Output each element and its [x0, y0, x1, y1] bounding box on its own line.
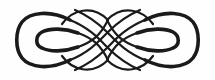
left-inner-loop — [37, 29, 78, 51]
knot-ornament-graphic — [0, 0, 215, 80]
braid-bottom-arch-left — [62, 56, 108, 70]
right-outer-loop — [145, 13, 198, 66]
braid-bottom-arch-right — [107, 56, 153, 70]
knot-ornament: Interlaced knot ornament — [0, 0, 215, 80]
braid-top-arch-left — [62, 10, 108, 24]
braid-top-arch-right — [107, 10, 153, 24]
left-outer-loop — [17, 13, 70, 66]
right-inner-loop — [137, 29, 178, 51]
